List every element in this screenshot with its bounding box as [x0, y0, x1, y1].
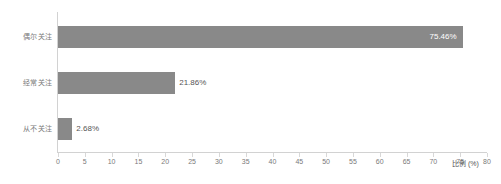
- x-tick-label: 55: [338, 158, 368, 165]
- category-label: 从不关注: [0, 118, 52, 140]
- bar-value-label: 21.86%: [179, 72, 206, 94]
- x-tick-mark: [246, 153, 247, 157]
- x-tick-label: 10: [97, 158, 127, 165]
- category-label: 偶尔关注: [0, 26, 52, 48]
- x-tick-label: 65: [392, 158, 422, 165]
- x-tick-label: 15: [123, 158, 153, 165]
- bar[interactable]: [58, 72, 175, 94]
- x-tick-mark: [85, 153, 86, 157]
- x-tick-label: 0: [43, 158, 73, 165]
- x-tick-mark: [112, 153, 113, 157]
- x-tick-mark: [58, 153, 59, 157]
- x-tick-mark: [326, 153, 327, 157]
- bar-value-label: 75.46%: [58, 26, 457, 48]
- x-tick-label: 40: [258, 158, 288, 165]
- x-tick-mark: [487, 153, 488, 157]
- x-tick-label: 25: [177, 158, 207, 165]
- x-tick-label: 5: [70, 158, 100, 165]
- x-tick-label: 45: [284, 158, 314, 165]
- x-tick-label: 60: [365, 158, 395, 165]
- bar-value-label: 2.68%: [76, 118, 99, 140]
- bar[interactable]: [58, 118, 72, 140]
- x-tick-label: 50: [311, 158, 341, 165]
- x-tick-mark: [433, 153, 434, 157]
- x-tick-label: 20: [150, 158, 180, 165]
- x-tick-label: 35: [231, 158, 261, 165]
- x-tick-mark: [460, 153, 461, 157]
- category-label: 经常关注: [0, 72, 52, 94]
- x-axis-title: 比例 (%): [452, 158, 479, 168]
- x-tick-mark: [380, 153, 381, 157]
- x-tick-mark: [219, 153, 220, 157]
- x-tick-mark: [192, 153, 193, 157]
- x-tick-mark: [299, 153, 300, 157]
- x-tick-mark: [138, 153, 139, 157]
- x-tick-mark: [353, 153, 354, 157]
- x-tick-label: 70: [418, 158, 448, 165]
- x-tick-mark: [165, 153, 166, 157]
- x-tick-mark: [273, 153, 274, 157]
- x-tick-label: 30: [204, 158, 234, 165]
- bar-chart: 偶尔关注75.46%经常关注21.86%从不关注2.68% 0510152025…: [0, 0, 501, 184]
- x-tick-mark: [407, 153, 408, 157]
